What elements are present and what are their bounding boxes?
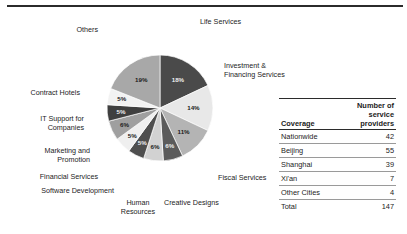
pie-label-software-development: Software Development xyxy=(16,186,114,195)
pie-label-text-line2: Financing Services xyxy=(224,70,285,79)
pie-label-text: Creative Designs xyxy=(164,198,219,207)
cell-provider-count: 147 xyxy=(340,200,396,214)
cell-coverage: Other Cities xyxy=(279,186,340,200)
pie-label-creative-designs: Creative Designs xyxy=(164,198,219,207)
table-row: Nationwide42 xyxy=(279,130,396,144)
pie-label-text-line2: Promotion xyxy=(8,155,90,164)
pie-label-text-line1: Investment & xyxy=(224,61,285,70)
pie-label-text-line1: Marketing and xyxy=(8,146,90,155)
column-header-line3: providers xyxy=(342,119,394,128)
coverage-table-container: Coverage Number of service providers Nat… xyxy=(279,98,396,213)
pie-label-text-line2: Companies xyxy=(6,123,84,132)
cell-coverage: Nationwide xyxy=(279,130,340,144)
pie-label-text: Life Services xyxy=(200,17,241,26)
column-header-number-of-service-providers: Number of service providers xyxy=(340,99,396,130)
pie-label-it-support-for-companies: IT Support for Companies xyxy=(6,114,84,132)
cell-provider-count: 7 xyxy=(340,172,396,186)
column-header-line2: service xyxy=(342,110,394,119)
pie-label-text: Others xyxy=(76,25,98,34)
pie-label-marketing-and-promotion: Marketing and Promotion xyxy=(8,146,90,164)
cell-coverage: Total xyxy=(279,200,340,214)
coverage-table: Coverage Number of service providers Nat… xyxy=(279,98,396,213)
pie-label-text-line1: Human xyxy=(115,198,161,207)
column-header-line1: Number of xyxy=(342,101,394,110)
table-head: Coverage Number of service providers xyxy=(279,99,396,130)
cell-provider-count: 42 xyxy=(340,130,396,144)
pie-label-investment-financing-services: Investment & Financing Services xyxy=(224,61,285,79)
cell-provider-count: 4 xyxy=(340,186,396,200)
table-row: Shanghai39 xyxy=(279,158,396,172)
table-row: Other Cities4 xyxy=(279,186,396,200)
pie-label-text: Fiscal Services xyxy=(218,173,266,182)
cell-provider-count: 39 xyxy=(340,158,396,172)
pie-label-text: Software Development xyxy=(41,186,114,195)
cell-coverage: Shanghai xyxy=(279,158,340,172)
pie-label-others: Others xyxy=(56,25,98,34)
pie-label-human-resources: Human Resources xyxy=(115,198,161,216)
table-header-row: Coverage Number of service providers xyxy=(279,99,396,130)
table-body: Nationwide42Beijing55Shanghai39Xi'an7Oth… xyxy=(279,130,396,214)
cell-coverage: Xi'an xyxy=(279,172,340,186)
cell-provider-count: 55 xyxy=(340,144,396,158)
figure-container: 18%14%11%6%6%5%5%6%5%5%19% Life Services… xyxy=(0,0,407,234)
pie-label-text: Financial Services xyxy=(40,172,98,181)
pie-label-text: Contract Hotels xyxy=(30,88,80,97)
pie-chart: 18%14%11%6%6%5%5%6%5%5%19% Life Services… xyxy=(0,0,260,234)
table-row: Xi'an7 xyxy=(279,172,396,186)
column-header-coverage: Coverage xyxy=(279,99,340,130)
pie-label-fiscal-services: Fiscal Services xyxy=(218,173,266,182)
cell-coverage: Beijing xyxy=(279,144,340,158)
table-row: Beijing55 xyxy=(279,144,396,158)
pie-label-life-services: Life Services xyxy=(200,17,241,26)
pie-label-contract-hotels: Contract Hotels xyxy=(4,88,80,97)
pie-label-text-line1: IT Support for xyxy=(6,114,84,123)
pie-label-financial-services: Financial Services xyxy=(10,172,98,181)
table-row: Total147 xyxy=(279,200,396,214)
pie-label-text-line2: Resources xyxy=(115,207,161,216)
